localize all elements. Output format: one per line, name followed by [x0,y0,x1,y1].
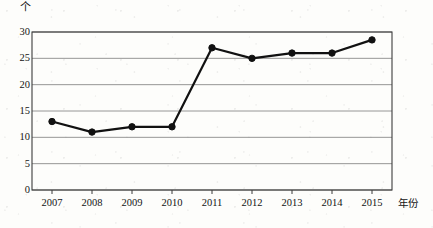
gridlines [32,32,392,190]
data-point-marker [49,118,55,124]
data-point-marker [329,50,335,56]
x-axis-tick-label: 2009 [112,198,152,209]
data-point-markers [49,37,375,136]
x-axis-tick-label: 2015 [352,198,392,209]
x-axis-tick-label: 2012 [232,198,272,209]
x-axis-tick-label: 2008 [72,198,112,209]
line-chart: 个 051015202530 年份 2007200820092010201120… [0,0,433,228]
data-point-marker [209,45,215,51]
data-point-marker [289,50,295,56]
data-point-marker [89,129,95,135]
data-series-line [52,40,372,132]
data-point-marker [169,124,175,130]
data-point-marker [249,55,255,61]
x-axis-tick-label: 2007 [32,198,72,209]
x-axis-tick-label: 2010 [152,198,192,209]
x-axis-tick-label: 2013 [272,198,312,209]
x-axis-tick-label: 2011 [192,198,232,209]
data-point-marker [129,124,135,130]
chart-canvas [0,0,433,228]
data-point-marker [369,37,375,43]
x-axis-tick-label: 2014 [312,198,352,209]
x-axis-ticks [52,190,372,194]
